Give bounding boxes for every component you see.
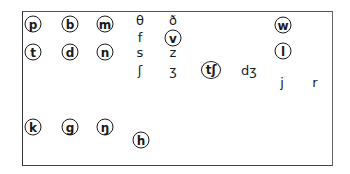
phoneme-dezh: dʒ [241,64,257,77]
phoneme-s: s [137,46,144,59]
phoneme-f: f [138,31,143,44]
phoneme-j: j [280,76,284,89]
phoneme-p-circled: p [25,16,42,33]
phoneme-m-circled: m [97,16,114,33]
phoneme-b-circled: b [62,16,79,33]
phoneme-t-circled: t [25,44,42,61]
phoneme-z: z [170,46,177,59]
phoneme-eng-circled: ŋ [97,119,114,136]
phoneme-h-circled: h [133,132,150,149]
phoneme-eth: ð [169,14,177,27]
phoneme-r: r [312,76,317,89]
phoneme-tesh-circled: tʃ [201,61,221,79]
phoneme-g-circled: g [62,119,79,136]
phoneme-d-circled: d [62,44,79,61]
phoneme-k-circled: k [25,119,42,136]
phoneme-w-circled: w [275,17,292,34]
phoneme-theta: θ [136,14,144,27]
phoneme-l-circled: l [275,43,292,60]
phoneme-n-circled: n [97,44,114,61]
phoneme-esh: ʃ [138,64,142,77]
phoneme-ezh: ʒ [169,64,177,77]
